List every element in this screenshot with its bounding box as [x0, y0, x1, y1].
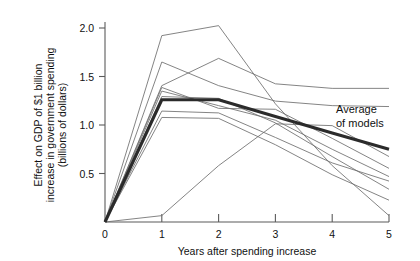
y-tick-label-1.5: 1.5: [79, 71, 94, 83]
series-line-model-6: [105, 97, 389, 222]
chart-figure: 2.0 1.5 1.0 0.5 0 1 2 3 4 5 Years after …: [0, 0, 420, 261]
x-axis-title: Years after spending increase: [178, 245, 317, 257]
x-tick-label-3: 3: [272, 228, 278, 240]
x-tick-label-2: 2: [216, 228, 222, 240]
x-tick-label-0: 0: [102, 228, 108, 240]
y-axis-title-line-3: (billions of dollars): [56, 83, 68, 168]
y-axis-title-line-1: Effect on GDP of $1 billion: [32, 63, 44, 186]
y-tick-marks: [99, 28, 105, 174]
y-axis-title-line-2: increase in government spending: [44, 48, 56, 203]
y-tick-label-0.5: 0.5: [79, 168, 94, 180]
y-tick-label-2.0: 2.0: [79, 22, 94, 34]
average-of-models-annotation-line-1: Average: [336, 103, 377, 115]
average-of-models-annotation-line-2: of models: [336, 117, 384, 129]
x-tick-label-4: 4: [329, 228, 335, 240]
x-tick-label-5: 5: [386, 228, 392, 240]
line-chart: 2.0 1.5 1.0 0.5 0 1 2 3 4 5 Years after …: [0, 0, 420, 261]
series-line-model-2: [105, 62, 389, 222]
x-tick-label-1: 1: [159, 228, 165, 240]
x-tick-marks: [162, 214, 389, 222]
y-tick-label-1.0: 1.0: [79, 119, 94, 131]
